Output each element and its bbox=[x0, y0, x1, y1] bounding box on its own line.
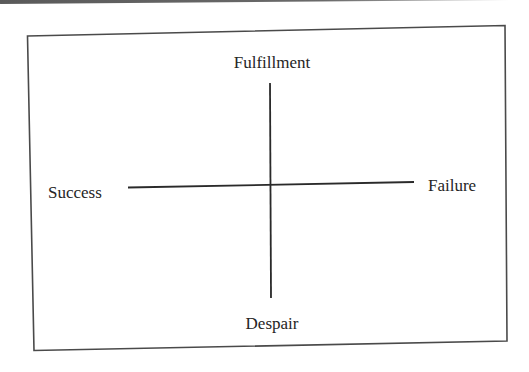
vertical-axis bbox=[270, 83, 271, 298]
label-top-fulfillment: Fulfillment bbox=[234, 53, 311, 72]
label-right-failure: Failure bbox=[428, 176, 476, 195]
label-left-success: Success bbox=[48, 183, 102, 202]
label-bottom-despair: Despair bbox=[246, 314, 299, 333]
quadrant-diagram: Fulfillment Success Failure Despair bbox=[0, 0, 529, 372]
